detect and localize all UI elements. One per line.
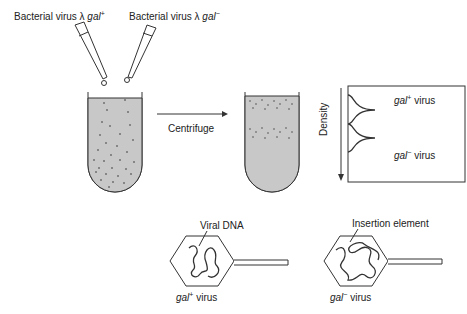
label-prefix: Bacterial virus λ [14, 11, 87, 22]
gene-name: gal [394, 95, 407, 106]
label-phage-gal-plus: gal+ virus [176, 291, 217, 303]
label-suffix: virus [193, 292, 217, 303]
label-peak-gal-minus: gal− virus [394, 149, 435, 161]
phage-gal-minus [324, 229, 442, 286]
phage-gal-plus [170, 231, 288, 286]
gene-name: gal [176, 292, 189, 303]
label-density-axis: Density [318, 103, 329, 136]
centrifuge-arrow [157, 111, 228, 117]
gene-sup: + [101, 10, 105, 17]
gene-name: gal [394, 150, 407, 161]
tube-mixed [88, 92, 142, 192]
label-suffix: virus [347, 292, 371, 303]
label-virus-gal-minus: Bacterial virus λ gal− [129, 10, 220, 22]
gene-name: gal [330, 292, 343, 303]
label-insertion-element: Insertion element [352, 218, 429, 229]
label-prefix: Bacterial virus λ [129, 11, 202, 22]
label-suffix: virus [411, 150, 435, 161]
label-peak-gal-plus: gal+ virus [394, 94, 435, 106]
label-centrifuge: Centrifuge [168, 123, 214, 134]
label-virus-gal-plus: Bacterial virus λ gal+ [14, 10, 105, 22]
gene-sup: − [216, 10, 220, 17]
label-suffix: virus [411, 95, 435, 106]
pipette-gal-plus [75, 22, 107, 86]
tube-separated [245, 92, 299, 192]
gene-name: gal [202, 11, 215, 22]
gene-name: gal [87, 11, 100, 22]
label-phage-gal-minus: gal− virus [330, 291, 371, 303]
label-viral-dna: Viral DNA [200, 220, 244, 231]
pipette-gal-minus [125, 25, 157, 83]
